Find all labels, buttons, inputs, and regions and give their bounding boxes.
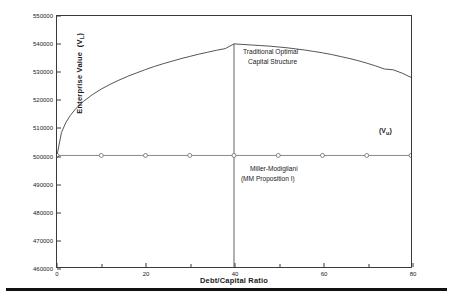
y-tick-label: 500000 [33,154,53,160]
data-point-marker [188,153,192,157]
y-tick-label: 520000 [33,97,53,103]
y-tick-mark [57,128,61,129]
chart-svg [57,16,411,267]
annotation-traditional-line-2: Capital Structure [243,57,298,67]
y-axis-title-main: Enterprise Value [75,52,84,114]
y-axis-title-subscript: L [79,35,85,39]
y-tick-mark [57,240,61,241]
y-tick-mark [57,156,61,157]
series-group [57,44,411,267]
y-axis-title-paren-close: ) [75,33,84,36]
data-point-marker [99,153,103,157]
x-tick-mark [146,263,147,267]
annotation-vu-close: ) [389,127,391,134]
x-tick-mark [57,263,58,267]
data-point-marker [276,153,280,157]
y-tick-label: 510000 [33,125,53,131]
chart-figure: 4600004700004800004900005000005100005200… [0,0,453,283]
y-tick-mark [57,16,61,17]
y-tick-mark [57,72,61,73]
y-tick-label: 470000 [33,238,53,244]
annotation-mm-line-1: Miller-Modigliani [238,164,298,174]
data-point-marker [321,153,325,157]
annotation-traditional-optimal: Traditional Optimal Capital Structure [243,47,298,66]
annotation-mm-line-2: (MM Proposition I) [238,174,298,184]
annotation-miller-modigliani: Miller-Modigliani (MM Proposition I) [238,164,298,183]
y-axis-title-paren-open: (V [75,39,84,47]
y-tick-label: 530000 [33,69,53,75]
x-tick-mark-minor [101,264,102,267]
data-point-marker [232,153,236,157]
annotation-traditional-line-1: Traditional Optimal [243,47,298,57]
data-point-marker [409,153,411,157]
y-tick-mark [57,184,61,185]
y-tick-mark [57,44,61,45]
plot-area: 4600004700004800004900005000005100005200… [56,15,412,268]
y-tick-mark [57,269,61,270]
y-tick-label: 460000 [33,266,53,272]
y-axis-title: Enterprise Value (VL) [75,0,86,148]
y-tick-label: 550000 [33,13,53,19]
x-tick-mark [324,263,325,267]
x-tick-mark-minor [368,264,369,267]
footer-divider [6,288,447,291]
data-point-marker [144,153,148,157]
y-tick-label: 540000 [33,41,53,47]
annotation-vu-open: (V [379,127,386,134]
x-tick-mark [413,263,414,267]
data-point-marker [365,153,369,157]
y-tick-label: 480000 [33,210,53,216]
x-tick-mark-minor [279,264,280,267]
x-axis-title: Debt/Capital Ratio [56,276,412,285]
y-tick-mark [57,212,61,213]
x-tick-mark-minor [190,264,191,267]
x-tick-mark [235,263,236,267]
annotation-unlevered-value: (Vu) [379,126,392,138]
y-tick-label: 490000 [33,182,53,188]
y-tick-mark [57,100,61,101]
